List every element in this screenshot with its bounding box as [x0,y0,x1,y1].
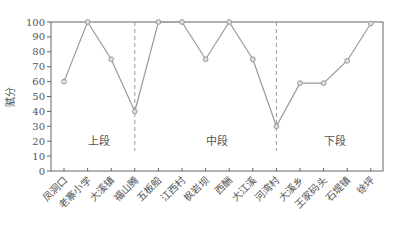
segment-label: 中段 [206,134,228,148]
segment-label: 下段 [324,134,346,148]
segment-annotations: 上段中段下段 [88,134,346,148]
y-tick-label: 90 [32,31,45,42]
data-point-marker [298,81,303,86]
data-point-marker [180,20,185,25]
y-tick-label: 20 [32,136,45,147]
x-tick-label: 福山腾 [111,174,141,204]
data-point-marker [368,21,373,26]
data-point-marker [227,20,232,25]
x-axis: 凤洞口老寨小学大溪镇福山腾五板船江西村枫岩坝西酬大江溪河湾村大溪乡王家码头石堤镇… [40,168,376,211]
y-tick-label: 40 [32,106,45,117]
data-point-marker [345,58,350,63]
x-tick-label: 大江溪 [229,174,259,204]
y-tick-label: 80 [32,46,45,57]
y-tick-label: 100 [26,17,45,28]
data-point-marker [274,124,279,129]
data-point-marker [132,109,137,114]
segment-label: 上段 [88,134,110,148]
data-point-marker [62,79,67,84]
data-point-marker [250,57,255,62]
plot-border [51,22,383,171]
y-tick-label: 0 [39,166,45,177]
plot-frame [51,22,383,171]
y-tick-label: 30 [32,121,45,132]
x-tick-label: 徐坪 [354,174,377,197]
data-point-marker [85,20,90,25]
data-point-marker [203,57,208,62]
x-tick-label: 河湾村 [252,174,282,204]
x-tick-label: 五板船 [134,174,164,204]
x-tick-label: 石堤镇 [323,174,353,204]
y-tick-label: 70 [32,61,45,72]
data-series [62,20,374,129]
x-tick-label: 大溪镇 [87,174,117,204]
data-point-marker [321,81,326,86]
line-chart: 0102030405060708090100 凤洞口老寨小学大溪镇福山腾五板船江… [0,0,407,225]
y-axis-label: 赋分 [5,87,16,107]
y-axis: 0102030405060708090100 [26,17,51,177]
x-tick-label: 枫岩坝 [181,174,211,204]
y-tick-label: 60 [32,76,45,87]
data-point-marker [156,20,161,25]
y-tick-label: 50 [32,91,45,102]
segment-dividers [135,22,277,151]
y-tick-label: 10 [32,151,45,162]
series-line [64,22,371,126]
x-tick-label: 江西村 [158,174,188,204]
data-point-marker [109,57,114,62]
